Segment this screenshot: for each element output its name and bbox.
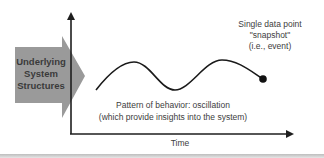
structures-line-3: Structures [15, 80, 67, 92]
structures-line-1: Underlying [15, 56, 67, 68]
snapshot-point-marker [259, 75, 267, 83]
snapshot-line-3: (i.e., event) [228, 41, 312, 52]
x-axis [70, 130, 294, 138]
oscillation-curve [96, 60, 267, 90]
snapshot-line-1: Single data point [228, 19, 312, 30]
pattern-line-1: Pattern of behavior: oscillation [78, 99, 268, 111]
structures-line-2: System [15, 68, 67, 80]
y-axis-arrowhead-icon [67, 12, 75, 20]
x-axis-label: Time [150, 138, 210, 148]
x-axis-arrowhead-icon [286, 130, 294, 138]
snapshot-annotation: Single data point "snapshot" (i.e., even… [228, 19, 312, 52]
behavior-over-time-diagram: Underlying System Structures Single data… [0, 0, 324, 158]
pattern-annotation: Pattern of behavior: oscillation (which … [78, 99, 268, 123]
snapshot-line-2: "snapshot" [228, 30, 312, 41]
bottom-divider [0, 154, 324, 158]
pattern-line-2: (which provide insights into the system) [78, 111, 268, 123]
underlying-structures-label: Underlying System Structures [15, 56, 67, 92]
